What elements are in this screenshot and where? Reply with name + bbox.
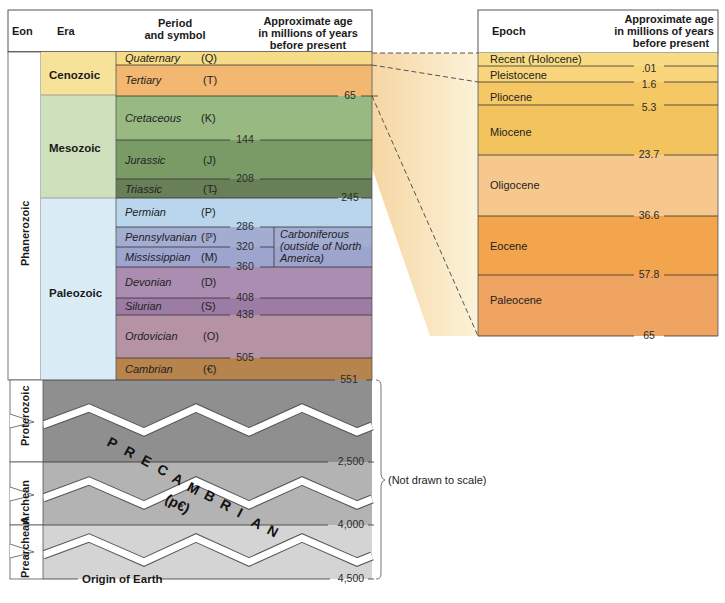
epoch-header-epoch: Epoch [492,25,526,37]
age-4500: 4,500 [338,572,364,584]
svg-text:(K): (K) [201,112,216,124]
svg-text:Cambrian: Cambrian [125,363,173,375]
eon-prearchean-label: Prearchean [19,518,31,578]
age-360: 360 [236,260,254,272]
header-era: Era [57,25,76,37]
epoch-header-age-line1: Approximate age [624,13,713,25]
svg-text:Oligocene: Oligocene [490,179,540,191]
svg-text:(O): (O) [203,330,219,342]
svg-text:Devonian: Devonian [125,276,171,288]
svg-text:(D): (D) [201,276,216,288]
svg-text:Silurian: Silurian [125,300,162,312]
svg-text:Triassic: Triassic [125,183,163,195]
epoch-header-age-line2: in millions of years [614,25,714,37]
age-286: 286 [236,220,254,232]
header-age-line2: in millions of years [258,27,358,39]
age-438: 438 [236,308,254,320]
era-cenozoic-label: Cenozoic [49,69,101,81]
svg-text:Pleistocene: Pleistocene [490,69,547,81]
svg-text:(T): (T) [203,74,217,86]
age-245: 245 [341,191,359,203]
svg-text:57.8: 57.8 [639,268,660,280]
age-65: 65 [344,89,356,101]
svg-text:Cretaceous: Cretaceous [125,112,182,124]
svg-text:Quaternary: Quaternary [125,52,182,64]
svg-text:Pennsylvanian: Pennsylvanian [125,231,197,243]
age-551: 551 [340,373,358,385]
eon-archean-label: Archean [19,480,31,524]
age-4000: 4,000 [338,518,364,530]
svg-text:5.3: 5.3 [642,101,657,113]
svg-text:(S): (S) [201,300,216,312]
carboniferous-note-line1: Carboniferous [280,228,350,240]
svg-text:Paleocene: Paleocene [490,294,542,306]
svg-text:(ℙ): (ℙ) [201,231,216,243]
svg-text:(Q): (Q) [201,52,217,64]
not-to-scale-note: (Not drawn to scale) [388,474,486,486]
age-2500: 2,500 [338,455,364,467]
svg-text:Permian: Permian [125,206,166,218]
age-208: 208 [236,172,254,184]
svg-text:1.6: 1.6 [642,78,657,90]
svg-text:(T̵): (T̵) [203,183,217,195]
svg-text:(J): (J) [203,154,216,166]
header-age-line1: Approximate age [263,15,352,27]
origin-of-earth-label: Origin of Earth [82,573,163,585]
era-mesozoic-label: Mesozoic [49,142,101,154]
eon-proterozoic-label: Proterozoic [19,385,31,446]
svg-text:Eocene: Eocene [490,240,527,252]
header-age-line3: before present [270,39,347,51]
age-144: 144 [236,133,254,145]
carboniferous-note-line3: America) [279,252,324,264]
age-505: 505 [236,351,254,363]
svg-text:Tertiary: Tertiary [125,74,163,86]
precambrian-section [43,380,372,579]
svg-text:65: 65 [643,329,655,341]
svg-text:23.7: 23.7 [639,148,660,160]
geologic-time-scale-diagram: Eon Era Period and symbol Approximate ag… [0,0,725,603]
eon-phanerozoic-label: Phanerozoic [19,201,31,266]
age-408: 408 [236,291,254,303]
svg-text:Pliocene: Pliocene [490,91,532,103]
svg-text:Jurassic: Jurassic [124,154,166,166]
svg-text:Ordovician: Ordovician [125,330,178,342]
svg-text:(€): (€) [203,363,216,375]
svg-text:.01: .01 [642,62,657,74]
svg-text:(M): (M) [201,251,218,263]
header-eon: Eon [12,25,33,37]
epoch-header-age-line3: before present [633,37,710,49]
era-paleozoic-label: Paleozoic [49,287,103,299]
carboniferous-note-line2: (outside of North [280,240,361,252]
svg-text:(P): (P) [201,206,216,218]
zoom-fan [372,53,478,336]
svg-text:Mississippian: Mississippian [125,251,190,263]
header-period-line1: Period [158,17,192,29]
header-period-line2: and symbol [144,29,205,41]
svg-text:Recent (Holocene): Recent (Holocene) [490,53,582,65]
svg-text:36.6: 36.6 [639,209,660,221]
svg-text:Miocene: Miocene [490,126,532,138]
age-320: 320 [236,240,254,252]
scale-bracket [376,380,385,579]
